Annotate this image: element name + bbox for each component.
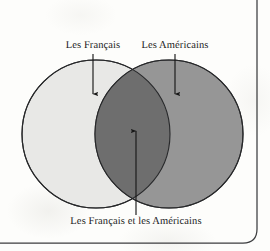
venn-diagram-figure: Les Français Les Américains Les Français…: [0, 0, 270, 251]
right-set-label: Les Américains: [141, 40, 208, 52]
intersection-label: Les Français et les Américains: [70, 216, 201, 228]
venn-circles: [22, 60, 243, 208]
left-set-label: Les Français: [66, 40, 121, 52]
venn-diagram-canvas: [0, 0, 270, 251]
